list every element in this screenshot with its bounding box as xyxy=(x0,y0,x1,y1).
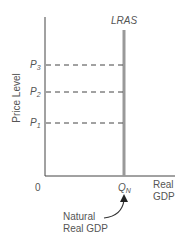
qn-label: QN xyxy=(118,183,131,194)
arrow-head-icon xyxy=(120,194,128,202)
p3-label: P3 xyxy=(30,60,41,71)
y-axis-label: Price Level xyxy=(12,73,22,123)
origin-label: 0 xyxy=(35,183,41,193)
p2-label: P2 xyxy=(30,87,41,98)
annotation-arrow xyxy=(104,200,124,218)
natural-note-line2: Real GDP xyxy=(63,224,108,234)
x-axis-label-line2: GDP xyxy=(153,192,175,202)
x-axis-label-line1: Real xyxy=(153,180,174,190)
natural-note-line1: Natural xyxy=(63,212,95,222)
lras-label: LRAS xyxy=(111,16,137,26)
p1-label: P1 xyxy=(30,118,41,129)
